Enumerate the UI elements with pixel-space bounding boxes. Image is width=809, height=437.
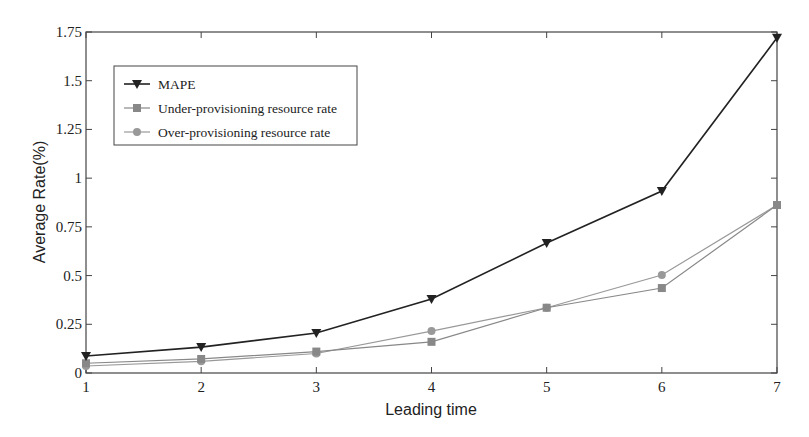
y-tick-label: 0.75 xyxy=(56,219,82,235)
square-marker xyxy=(658,284,666,292)
square-marker xyxy=(428,338,436,346)
y-tick-label: 0.25 xyxy=(56,316,82,332)
y-tick-label: 1.5 xyxy=(63,73,82,89)
square-marker xyxy=(133,104,141,112)
x-tick-label: 7 xyxy=(773,379,781,395)
square-marker xyxy=(197,355,205,363)
square-marker xyxy=(312,348,320,356)
square-marker xyxy=(773,201,781,209)
line-chart: 00.250.50.7511.251.51.75 1234567 Average… xyxy=(0,0,809,437)
x-axis-title: Leading time xyxy=(385,401,477,418)
x-tick-label: 1 xyxy=(82,379,90,395)
y-tick-label: 1.25 xyxy=(56,121,82,137)
circle-marker xyxy=(133,128,141,136)
legend-label: Over-provisioning resource rate xyxy=(158,125,330,140)
legend: MAPEUnder-provisioning resource rateOver… xyxy=(114,66,357,145)
y-tick-label: 1 xyxy=(75,170,83,186)
triangle-down-marker xyxy=(542,239,552,248)
x-tick-label: 5 xyxy=(543,379,551,395)
triangle-down-marker xyxy=(657,187,667,196)
x-tick-label: 3 xyxy=(313,379,321,395)
x-tick-label: 4 xyxy=(428,379,436,395)
y-tick-label: 0 xyxy=(75,365,83,381)
x-tick-label: 6 xyxy=(658,379,666,395)
legend-label: MAPE xyxy=(158,77,196,92)
x-tick-label: 2 xyxy=(197,379,205,395)
y-tick-label: 0.5 xyxy=(63,268,82,284)
y-tick-label: 1.75 xyxy=(56,24,82,40)
circle-marker xyxy=(658,271,666,279)
y-axis-title: Average Rate(%) xyxy=(31,141,48,263)
legend-label: Under-provisioning resource rate xyxy=(158,101,337,116)
circle-marker xyxy=(428,327,436,335)
square-marker xyxy=(543,304,551,312)
series-under-provisioning-resource-rate xyxy=(82,201,781,367)
